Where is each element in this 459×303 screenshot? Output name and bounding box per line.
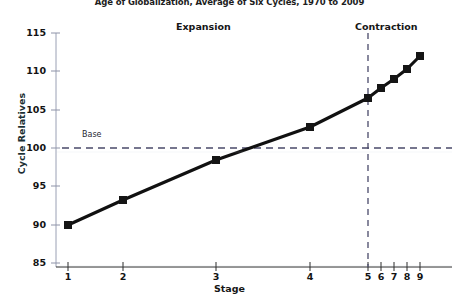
plot-area (0, 0, 459, 303)
chart-container: Age of Globalization, Average of Six Cyc… (0, 0, 459, 303)
scan-artifact (56, 152, 452, 266)
